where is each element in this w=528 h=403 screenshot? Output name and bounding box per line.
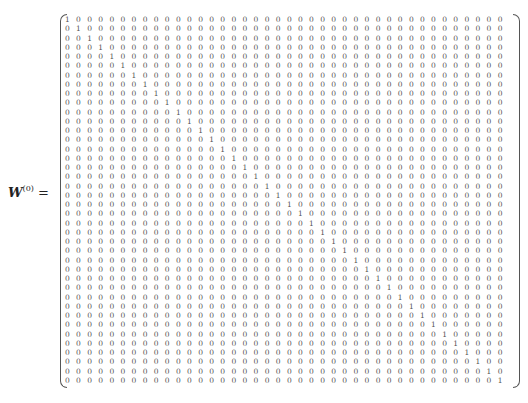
matrix-entry: 0 [298,117,309,126]
matrix-entry: 0 [187,163,198,172]
matrix-entry: 0 [154,15,165,24]
matrix-entry: 0 [265,209,276,218]
matrix-entry: 0 [365,302,376,311]
matrix-entry: 0 [176,357,187,366]
matrix-entry: 0 [109,330,120,339]
matrix-entry: 0 [254,274,265,283]
matrix-entry: 0 [498,154,509,163]
matrix-entry: 0 [320,367,331,376]
matrix-entry: 0 [298,320,309,329]
matrix-entry: 0 [431,348,442,357]
matrix-entry: 0 [120,24,131,33]
matrix-entry: 0 [309,163,320,172]
matrix-entry: 0 [98,154,109,163]
matrix-entry: 0 [342,117,353,126]
matrix-entry: 0 [132,357,143,366]
matrix-entry: 0 [453,15,464,24]
matrix-entry: 0 [120,71,131,80]
matrix-entry: 0 [76,265,87,274]
matrix-entry: 0 [342,376,353,385]
matrix-entry: 0 [231,367,242,376]
matrix-entry: 0 [243,376,254,385]
matrix-entry: 0 [320,330,331,339]
matrix-entry: 0 [154,191,165,200]
matrix-entry: 0 [409,330,420,339]
matrix-entry: 0 [376,145,387,154]
matrix-entry: 0 [376,246,387,255]
matrix-entry: 0 [442,52,453,61]
matrix-entry: 0 [353,24,364,33]
matrix-entry: 0 [276,52,287,61]
matrix-entry: 0 [98,135,109,144]
matrix-entry: 0 [87,219,98,228]
matrix-entry: 0 [187,71,198,80]
matrix-entry: 0 [220,182,231,191]
matrix-entry: 0 [143,320,154,329]
matrix-entry: 0 [154,117,165,126]
matrix-entry: 0 [120,311,131,320]
matrix-entry: 0 [76,274,87,283]
matrix-entry: 0 [187,24,198,33]
matrix-entry: 0 [464,89,475,98]
matrix-entry: 0 [498,182,509,191]
matrix-entry: 0 [498,209,509,218]
matrix-entry: 0 [320,80,331,89]
matrix-entry: 0 [287,24,298,33]
matrix-entry: 0 [298,348,309,357]
matrix-entry: 0 [398,182,409,191]
matrix-entry: 0 [87,89,98,98]
matrix-entry: 0 [87,246,98,255]
matrix-entry: 0 [65,191,76,200]
matrix-entry: 0 [132,311,143,320]
matrix-entry: 0 [198,256,209,265]
matrix-entry: 0 [376,302,387,311]
matrix-entry: 0 [376,80,387,89]
matrix-entry: 0 [342,274,353,283]
matrix-entry: 0 [220,172,231,181]
matrix-entry: 0 [154,274,165,283]
matrix-entry: 0 [132,320,143,329]
matrix-entry: 0 [176,34,187,43]
matrix-entry: 0 [420,61,431,70]
matrix-entry: 0 [431,182,442,191]
matrix-entry: 0 [331,330,342,339]
matrix-entry-diagonal: 1 [120,61,131,70]
matrix-entry: 0 [464,330,475,339]
matrix-entry: 0 [220,339,231,348]
matrix-entry: 0 [287,209,298,218]
matrix-entry: 0 [464,219,475,228]
matrix-entry: 0 [276,357,287,366]
matrix-entry: 0 [309,126,320,135]
matrix-entry: 0 [209,274,220,283]
matrix-entry: 0 [243,237,254,246]
matrix-entry: 0 [120,191,131,200]
matrix-entry: 0 [76,52,87,61]
matrix-entry: 0 [209,265,220,274]
matrix-entry: 0 [276,283,287,292]
matrix-entry: 0 [320,283,331,292]
matrix-entry: 0 [320,339,331,348]
matrix-entry: 0 [154,52,165,61]
matrix-entry-diagonal: 1 [209,135,220,144]
matrix-entry: 0 [409,80,420,89]
matrix-entry: 0 [453,311,464,320]
matrix-entry: 0 [76,228,87,237]
matrix-entry-diagonal: 1 [254,172,265,181]
matrix-entry: 0 [254,283,265,292]
matrix-entry: 0 [398,320,409,329]
matrix-entry: 0 [453,348,464,357]
matrix-entry: 0 [198,52,209,61]
matrix-entry: 0 [109,71,120,80]
matrix-entry: 0 [453,293,464,302]
matrix-entry: 0 [498,367,509,376]
matrix-entry: 0 [342,200,353,209]
matrix-entry: 0 [109,219,120,228]
matrix-entry: 0 [331,219,342,228]
matrix-entry: 0 [98,256,109,265]
matrix-entry: 0 [309,89,320,98]
matrix-entry: 0 [109,15,120,24]
matrix-entry: 0 [220,330,231,339]
matrix-entry: 0 [98,367,109,376]
matrix-entry: 0 [420,154,431,163]
matrix-entry: 0 [442,274,453,283]
